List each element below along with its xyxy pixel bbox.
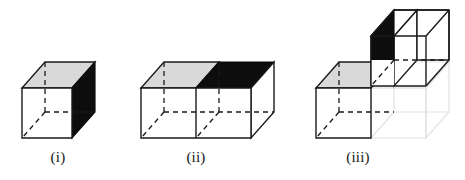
figure-i-front-face — [22, 88, 72, 138]
figure-caption-iii: (iii) — [327, 149, 389, 166]
figure-iii-displaced-far-face — [417, 10, 449, 60]
figure-ii-block — [141, 62, 274, 138]
figure-panel: (i) (ii) (iii) — [0, 0, 465, 180]
figure-caption-ii: (ii) — [170, 149, 222, 166]
figure-caption-i: (i) — [36, 149, 80, 166]
figure-iii-lower-front-face — [316, 88, 371, 138]
